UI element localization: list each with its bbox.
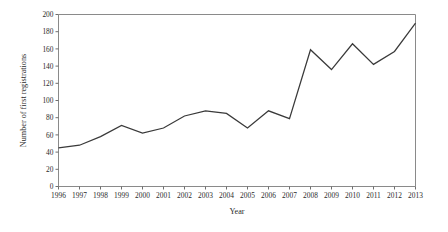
x-tick-label: 2012 [387,191,402,200]
x-tick-label: 2007 [282,191,297,200]
x-tick-label: 1997 [72,191,87,200]
y-tick-label: 20 [46,165,54,174]
chart-canvas: 020406080100120140160180200 199619971998… [0,0,448,232]
y-axis-title: Number of first registrations [19,54,28,147]
x-tick-label: 2011 [366,191,381,200]
x-tick-label: 2009 [324,191,339,200]
x-tick-label: 1996 [51,191,66,200]
y-tick-label: 80 [46,113,54,122]
x-tick-label: 2013 [408,191,423,200]
y-tick-label: 180 [42,27,53,36]
x-tick-label: 1998 [93,191,108,200]
y-tick-label: 40 [46,148,54,157]
y-tick-label: 120 [42,79,53,88]
y-tick-label: 160 [42,45,53,54]
y-tick-label: 140 [42,62,53,71]
x-tick-label: 2004 [219,191,234,200]
y-tick-label: 200 [42,10,53,19]
x-tick-label: 2010 [345,191,360,200]
x-tick-label: 2000 [135,191,150,200]
x-tick-label: 2003 [198,191,213,200]
x-tick-label: 2002 [177,191,192,200]
line-chart: 020406080100120140160180200 199619971998… [0,0,448,232]
x-axis-title: Year [229,207,244,216]
x-tick-label: 2006 [261,191,276,200]
x-tick-label: 1999 [114,191,129,200]
x-tick-label: 2008 [303,191,318,200]
x-tick-label: 2001 [156,191,171,200]
y-tick-label: 100 [42,96,53,105]
y-tick-label: 0 [50,182,54,191]
y-tick-label: 60 [46,131,54,140]
x-tick-label: 2005 [240,191,255,200]
